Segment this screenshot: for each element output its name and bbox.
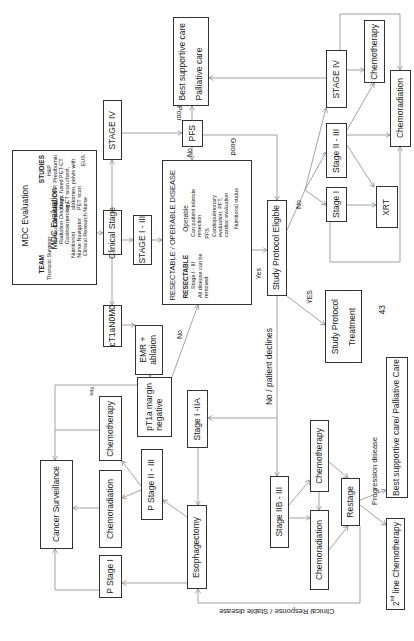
bsc-top-line-1: Best supportive care (177, 23, 187, 100)
label-poor: Poor (176, 106, 183, 121)
resectable-item-0: Stage I - III (190, 262, 196, 289)
chemotherapy-bottom-label: Chemotherapy (315, 428, 325, 484)
p-stage-i-label: P Stage I (106, 559, 116, 594)
esophagectomy-label: Esophagectomy (192, 517, 202, 578)
best-supportive-palliative-bottom-box: Best supportive care/ Palliative Care (386, 357, 408, 498)
mdc-team-header: TEAM (38, 255, 45, 273)
stage-iib-iii-label: Stage IIB - III (275, 487, 285, 537)
label-no-emr: No (176, 330, 183, 339)
chemoradiation-right-label: Chemoradiation (396, 78, 406, 138)
emr-ablation-box: EMR +ablation (135, 325, 163, 375)
study-treatment-label: Study ProtocolTreatment (327, 299, 361, 354)
clinical-stage-box: Clinical Stage (103, 210, 122, 255)
label-progression-disease: Progression disease (370, 437, 379, 505)
xrt-box: XRT (376, 186, 398, 228)
mdc-study-2: Xrays: fused PET-CT or CT scan chest, ab… (58, 155, 82, 210)
second-line-chemo-label: 2nd line Chemotherapy (390, 522, 402, 606)
stage-iv-right-box: STAGE IV (326, 50, 347, 108)
chemoradiation-bottom-box: Chemoradiation (310, 510, 329, 590)
label-good: Good (230, 138, 237, 155)
pt1a-line-2: negative (154, 399, 164, 431)
study-treatment-line-2: Treatment (347, 307, 357, 345)
p-stage-ii-iii-box: P Stage II - III (141, 449, 163, 520)
cancer-surveillance-label: Cancer Surveillance (52, 466, 62, 542)
chemoradiation-left-box: Chemoradiation (99, 470, 122, 548)
operable-item-0: Can patient tolerate resection (190, 185, 202, 237)
p-stage-i-box: P Stage I (99, 555, 122, 598)
chemoradiation-bottom-label: Chemoradiation (315, 520, 325, 580)
p-stage-ii-iii-label: P Stage II - III (147, 459, 157, 511)
bsc-top-line-2: Palliative care (194, 47, 204, 100)
resectable-title: RESECTABLE / OPERABLE DISEASE (168, 170, 177, 300)
pfs-label: PFS (188, 125, 198, 142)
emr-line-2: ablation (148, 335, 158, 365)
chemotherapy-right-box: Chemotherapy (364, 20, 385, 83)
chemoradiation-left-label: Chemoradiation (106, 479, 116, 539)
chemotherapy-left-box: Chemotherapy (99, 396, 122, 461)
stage-i-right-label: Stage I (332, 191, 342, 218)
resectable-header: RESECTABLE (182, 255, 189, 299)
study-protocol-treatment-box: Study ProtocolTreatment (325, 290, 362, 363)
label-yes-study: YES (306, 290, 313, 304)
study-protocol-eligible-box: Study Protocol Eligible (267, 200, 287, 296)
stage-i-iia-label: Stage I -IIA (193, 398, 203, 441)
mdc-title-label: MDC Evaluation (20, 185, 30, 246)
label-no-study: No (295, 200, 302, 209)
xrt-label: XRT (382, 199, 392, 216)
mdc-studies-header: STUDIES (38, 155, 45, 183)
esophagectomy-box: Esophagectomy (187, 505, 207, 589)
ct1an0m0-box: cT1aN0M0 (103, 305, 122, 347)
emr-ablation-label: EMR +ablation (139, 335, 159, 365)
second-line-text: line Chemotherapy (391, 522, 401, 596)
restage-label: Restage (346, 486, 356, 518)
label-yes-resectable: Yes (255, 268, 262, 279)
chemoradiation-right-box: Chemoradiation (390, 70, 411, 147)
stage-iib-iii-box: Stage IIB - III (270, 476, 289, 548)
label-clinical-response: Clinical Response / Stable disease (219, 607, 334, 616)
study-eligible-label: Study Protocol Eligible (272, 205, 282, 290)
cancer-surveillance-box: Cancer Surveillance (40, 460, 73, 549)
stage-ii-iii-right-label: Stage II - III (332, 129, 342, 173)
mdc-study-3: EUS (80, 155, 86, 166)
restage-box: Restage (341, 478, 360, 526)
pt1a-margin-negative-box: pT1a marginnegative (137, 377, 172, 437)
stage-ii-iii-right-box: Stage II - III (326, 123, 347, 178)
label-no-patient-declines: No / patient declines (264, 328, 274, 405)
stage-i-iia-box: Stage I -IIA (187, 390, 208, 448)
ct1an0m0-label: cT1aN0M0 (108, 305, 118, 347)
stage-iv-right-label: STAGE IV (332, 60, 342, 99)
stage-i-right-box: Stage I (326, 187, 347, 222)
pt1a-line-1: pT1a margin (144, 383, 154, 431)
chemotherapy-bottom-box: Chemotherapy (310, 420, 329, 492)
page-number: 43 (377, 305, 387, 314)
stage-i-iii-box: STAGE I - III (133, 215, 152, 265)
pfs-box: PFS (182, 120, 203, 147)
resectable-item-1: All disease can be removed (197, 238, 209, 298)
stage-iv-left-label: STAGE IV (108, 111, 118, 150)
stage-iv-left-box: STAGE IV (103, 100, 122, 160)
second-line-suffix: nd (389, 596, 395, 602)
mdc-team-6: Clinical Research Nurse (82, 197, 88, 256)
pt1a-label: pT1a marginnegative (145, 383, 165, 431)
stage-i-iii-label: STAGE I - III (138, 216, 148, 264)
clinical-stage-label: Clinical Stage (108, 207, 118, 259)
second-line-chemotherapy-box: 2nd line Chemotherapy (386, 518, 405, 610)
best-supportive-palliative-top-box: Best supportive carePalliative care (173, 17, 209, 106)
label-no-pfs: No (186, 148, 193, 157)
operable-header: Operable (182, 205, 189, 232)
bsc-top-label: Best supportive carePalliative care (174, 23, 208, 100)
label-yes-pt1a: Yes (89, 386, 95, 396)
second-line-number: 2 (391, 601, 401, 606)
operable-item-1: PFS (204, 228, 210, 239)
emr-line-1: EMR + (138, 337, 148, 363)
chemotherapy-right-label: Chemotherapy (370, 24, 380, 80)
study-treatment-line-1: Study Protocol (330, 299, 340, 354)
bsc-bottom-label: Best supportive care/ Palliative Care (392, 359, 402, 496)
operable-item-3: Nutritional status (233, 188, 239, 229)
chemotherapy-left-label: Chemotherapy (106, 401, 116, 457)
operable-item-2: Cardiopulmonary evaluation: PFT, cardiac… (211, 180, 229, 237)
